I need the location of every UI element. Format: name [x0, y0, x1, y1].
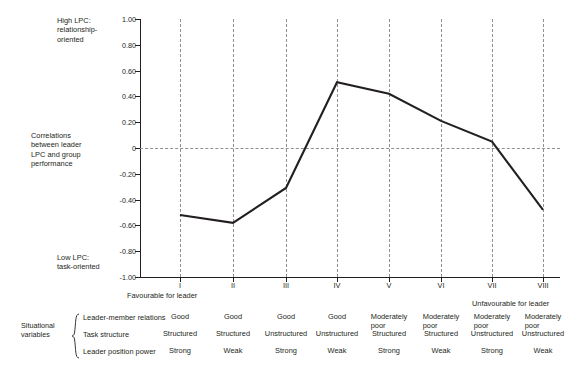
x-tick-label-vii: VII	[487, 281, 496, 290]
y-tick-label: -0.20	[120, 169, 136, 178]
x-tick-label-ii: II	[231, 281, 235, 290]
matrix-cell: Structured	[216, 330, 250, 339]
matrix-cell: Unstructured	[471, 330, 513, 339]
y-tick-label: 1.00	[122, 15, 136, 24]
y-tick-label: -1.00	[120, 273, 136, 282]
x-tick-label-vi: VI	[438, 281, 445, 290]
matrix-cell: Strong	[378, 347, 400, 356]
correlation-line	[180, 82, 543, 223]
x-axis-tick-labels: IIIIIIIVVVIVIIVIII	[140, 281, 560, 293]
matrix-row-label: Task structure	[83, 330, 129, 339]
matrix-cell: Moderately poor	[423, 313, 460, 331]
matrix-cell: Good	[328, 313, 346, 322]
matrix-row-label: Leader-member relations	[83, 313, 166, 322]
y-tick-mark	[135, 277, 140, 278]
group-label-line-2: variables	[21, 330, 69, 339]
x-tick-label-i: I	[179, 281, 181, 290]
figure-canvas: High LPC: relationship- oriented Correla…	[0, 0, 588, 376]
matrix-cell: Strong	[169, 347, 191, 356]
matrix-cell: Unstructured	[265, 330, 307, 339]
y-tick-label: -0.80	[120, 247, 136, 256]
matrix-cell: Unstructured	[522, 330, 564, 339]
matrix-cell: Structured	[163, 330, 197, 339]
plot-area	[140, 19, 560, 277]
matrix-cell: Weak	[534, 347, 553, 356]
matrix-cell: Moderately poor	[474, 313, 511, 331]
matrix-cell: Good	[224, 313, 242, 322]
matrix-cell: Weak	[224, 347, 243, 356]
y-tick-label: 0.60	[122, 66, 136, 75]
matrix-cell: Weak	[432, 347, 451, 356]
situational-variables-group-label: Situational variables	[21, 321, 69, 339]
y-tick-label: 0.40	[122, 92, 136, 101]
matrix-cell: Good	[277, 313, 295, 322]
y-tick-label: 0.20	[122, 118, 136, 127]
curly-brace-icon	[71, 313, 80, 359]
y-tick-label: -0.60	[120, 221, 136, 230]
matrix-cell: Moderately poor	[371, 313, 408, 331]
y-tick-label: 0.80	[122, 40, 136, 49]
y-axis-tick-labels: 1.000.800.600.400.200-0.20-0.40-0.60-0.8…	[108, 19, 136, 277]
situational-variables-table: Situational variables Leader-member rela…	[0, 305, 588, 363]
x-tick-label-viii: VIII	[537, 281, 548, 290]
favourable-label: Favourable for leader	[127, 291, 197, 300]
matrix-cell: Structured	[424, 330, 458, 339]
group-label-line-1: Situational	[21, 321, 69, 330]
matrix-cell: Good	[171, 313, 189, 322]
matrix-cell: Strong	[275, 347, 297, 356]
data-series-line	[140, 19, 560, 277]
matrix-row-label: Leader position power	[83, 347, 156, 356]
matrix-cell: Weak	[328, 347, 347, 356]
x-tick-label-iii: III	[283, 281, 289, 290]
matrix-cell: Structured	[372, 330, 406, 339]
x-axis-line	[140, 277, 560, 278]
x-tick-label-v: V	[387, 281, 392, 290]
matrix-cell: Moderately poor	[525, 313, 562, 331]
x-tick-label-iv: IV	[334, 281, 341, 290]
matrix-cell: Strong	[481, 347, 503, 356]
y-tick-label: -0.40	[120, 195, 136, 204]
matrix-cell: Unstructured	[316, 330, 358, 339]
